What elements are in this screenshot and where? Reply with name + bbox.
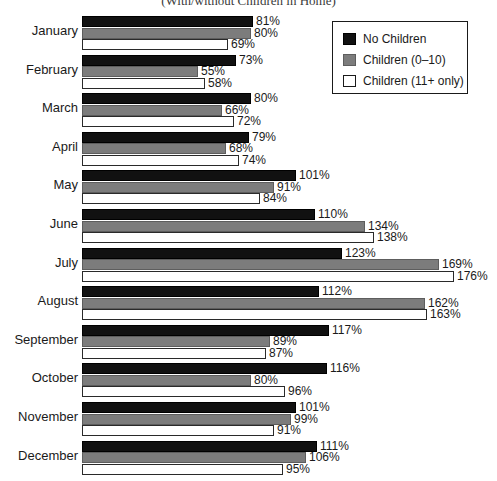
bar-value-label: 96% xyxy=(288,385,312,398)
bar-august-series-1[interactable] xyxy=(82,298,425,309)
legend-label: Children (11+ only) xyxy=(363,75,464,88)
month-group: November101%99%91% xyxy=(0,402,497,441)
bar-january-series-1[interactable] xyxy=(82,28,251,39)
bar-august-series-2[interactable] xyxy=(82,309,427,320)
bar-november-series-1[interactable] xyxy=(82,414,291,425)
bar-value-label: 95% xyxy=(286,463,310,476)
bar-september-series-2[interactable] xyxy=(82,348,266,359)
white-swatch-icon xyxy=(343,75,356,87)
bar-value-label: 91% xyxy=(277,424,301,437)
month-group: March80%66%72% xyxy=(0,93,497,132)
bar-december-series-0[interactable] xyxy=(82,441,317,452)
bar-row: 106% xyxy=(82,452,482,463)
bar-row: 79% xyxy=(82,132,482,143)
bar-september-series-1[interactable] xyxy=(82,336,270,347)
bar-value-label: 80% xyxy=(254,374,278,387)
bar-december-series-1[interactable] xyxy=(82,452,306,463)
bar-value-label: 101% xyxy=(299,169,330,182)
bar-february-series-2[interactable] xyxy=(82,78,205,89)
bar-may-series-0[interactable] xyxy=(82,170,296,181)
bar-value-label: 87% xyxy=(269,347,293,360)
legend-item-children-0-10[interactable]: Children (0–10) xyxy=(343,50,467,70)
bar-row: 162% xyxy=(82,298,482,309)
gray-swatch-icon xyxy=(343,54,356,66)
bar-november-series-0[interactable] xyxy=(82,402,296,413)
bar-june-series-1[interactable] xyxy=(82,221,365,232)
month-group: May101%91%84% xyxy=(0,170,497,209)
legend-label: No Children xyxy=(363,33,426,46)
bar-may-series-2[interactable] xyxy=(82,193,260,204)
month-group: June110%134%138% xyxy=(0,209,497,248)
bar-row: 80% xyxy=(82,375,482,386)
category-label-december: December xyxy=(18,449,78,463)
bar-july-series-2[interactable] xyxy=(82,271,454,282)
bar-row: 66% xyxy=(82,105,482,116)
category-label-january: January xyxy=(32,24,78,38)
bar-row: 163% xyxy=(82,309,482,320)
month-group: September117%89%87% xyxy=(0,325,497,364)
bar-row: 95% xyxy=(82,464,482,475)
bar-value-label: 123% xyxy=(345,247,376,260)
month-group: April79%68%74% xyxy=(0,132,497,171)
bar-march-series-2[interactable] xyxy=(82,116,234,127)
legend-item-children-11-plus[interactable]: Children (11+ only) xyxy=(343,71,467,91)
bar-october-series-1[interactable] xyxy=(82,375,251,386)
bar-value-label: 176% xyxy=(457,270,488,283)
bar-value-label: 106% xyxy=(309,451,340,464)
bar-value-label: 69% xyxy=(231,38,255,51)
legend-label: Children (0–10) xyxy=(363,54,446,67)
bar-value-label: 110% xyxy=(318,208,348,221)
bar-row: 116% xyxy=(82,363,482,374)
bar-value-label: 74% xyxy=(242,154,266,167)
bar-november-series-2[interactable] xyxy=(82,425,274,436)
bar-january-series-2[interactable] xyxy=(82,39,228,50)
category-label-september: September xyxy=(14,333,78,347)
bar-value-label: 84% xyxy=(263,192,287,205)
category-label-april: April xyxy=(52,140,78,154)
month-group: August112%162%163% xyxy=(0,286,497,325)
bar-january-series-0[interactable] xyxy=(82,16,253,27)
bar-value-label: 73% xyxy=(239,54,263,67)
bar-march-series-1[interactable] xyxy=(82,105,222,116)
bar-april-series-2[interactable] xyxy=(82,155,239,166)
bar-row: 84% xyxy=(82,193,482,204)
bar-april-series-0[interactable] xyxy=(82,132,249,143)
category-label-may: May xyxy=(53,178,78,192)
bar-value-label: 117% xyxy=(332,324,362,337)
category-label-march: March xyxy=(42,101,78,115)
bar-june-series-0[interactable] xyxy=(82,209,315,220)
bar-value-label: 138% xyxy=(377,231,408,244)
bar-october-series-0[interactable] xyxy=(82,363,327,374)
category-label-october: October xyxy=(32,371,78,385)
bar-april-series-1[interactable] xyxy=(82,143,226,154)
bar-value-label: 112% xyxy=(322,285,352,298)
bar-august-series-0[interactable] xyxy=(82,286,319,297)
bar-june-series-2[interactable] xyxy=(82,232,374,243)
bar-february-series-1[interactable] xyxy=(82,66,198,77)
bar-may-series-1[interactable] xyxy=(82,182,274,193)
bar-row: 111% xyxy=(82,441,482,452)
category-label-february: February xyxy=(26,63,78,77)
bar-row: 176% xyxy=(82,271,482,282)
bar-december-series-2[interactable] xyxy=(82,464,283,475)
bar-july-series-1[interactable] xyxy=(82,259,439,270)
bar-row: 87% xyxy=(82,348,482,359)
bar-october-series-2[interactable] xyxy=(82,386,285,397)
bar-row: 110% xyxy=(82,209,482,220)
bar-row: 72% xyxy=(82,116,482,127)
bar-row: 101% xyxy=(82,402,482,413)
bar-row: 123% xyxy=(82,248,482,259)
bar-july-series-0[interactable] xyxy=(82,248,342,259)
legend-item-no-children[interactable]: No Children xyxy=(343,29,467,49)
category-label-june: June xyxy=(50,217,78,231)
bar-row: 112% xyxy=(82,286,482,297)
bar-value-label: 80% xyxy=(254,27,278,40)
month-group: July123%169%176% xyxy=(0,248,497,287)
bar-row: 91% xyxy=(82,425,482,436)
category-label-july: July xyxy=(55,256,78,270)
bar-row: 134% xyxy=(82,221,482,232)
month-group: October116%80%96% xyxy=(0,363,497,402)
bar-row: 68% xyxy=(82,143,482,154)
bar-value-label: 116% xyxy=(330,362,360,375)
bar-row: 169% xyxy=(82,259,482,270)
